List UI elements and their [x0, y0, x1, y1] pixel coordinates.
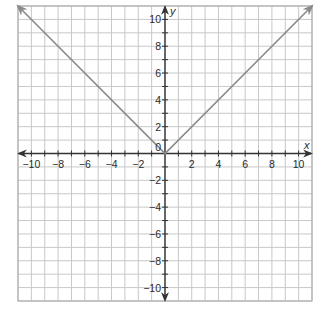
x-tick-label: 8	[269, 158, 275, 170]
x-tick-label: −2	[132, 158, 144, 170]
y-tick-label: −8	[149, 255, 161, 267]
x-tick-label: −4	[106, 158, 118, 170]
y-tick-label: 10	[149, 13, 161, 25]
y-axis-label: y	[169, 5, 177, 17]
y-tick-label: −4	[149, 201, 161, 213]
x-tick-label: 10	[293, 158, 305, 170]
y-tick-label: −6	[149, 228, 161, 240]
x-axis-label: x	[303, 139, 310, 151]
x-tick-label: 2	[189, 158, 195, 170]
y-tick-label: −10	[143, 282, 161, 294]
y-tick-label: 6	[155, 67, 161, 79]
origin-label: 0	[155, 141, 161, 153]
y-tick-label: 4	[155, 94, 161, 106]
y-tick-label: 8	[155, 40, 161, 52]
y-tick-label: −2	[149, 174, 161, 186]
coordinate-plane: −10−8−6−4−2246810−10−8−6−4−2246810 x y 0	[0, 0, 328, 317]
x-tick-label: −8	[52, 158, 64, 170]
x-tick-label: 4	[216, 158, 222, 170]
x-tick-label: −6	[79, 158, 91, 170]
x-tick-label: −10	[22, 158, 40, 170]
x-tick-label: 6	[242, 158, 248, 170]
y-tick-label: 2	[155, 121, 161, 133]
